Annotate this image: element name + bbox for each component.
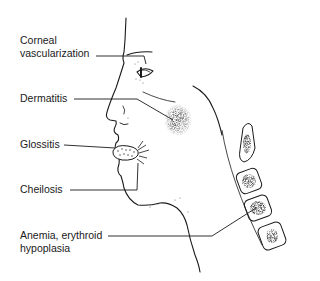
tongue bbox=[113, 141, 149, 164]
label-glossitis-text: Glossitis bbox=[20, 138, 60, 151]
label-dermatitis-text: Dermatitis bbox=[20, 92, 67, 105]
label-corneal-vascularization: Corneal vascularization bbox=[20, 34, 89, 60]
leader-glossitis bbox=[64, 145, 115, 148]
label-glossitis: Glossitis bbox=[20, 138, 60, 151]
label-cheilosis-text: Cheilosis bbox=[20, 183, 63, 196]
label-anemia-line1: Anemia, erythroid bbox=[20, 229, 102, 242]
label-corneal-line2: vascularization bbox=[20, 47, 89, 60]
leader-cheilosis bbox=[70, 163, 138, 190]
label-dermatitis: Dermatitis bbox=[20, 92, 67, 105]
leader-lines bbox=[64, 56, 256, 236]
cervical-vertebrae bbox=[222, 123, 287, 251]
label-anemia-erythroid-hypoplasia: Anemia, erythroid hypoplasia bbox=[20, 229, 102, 255]
leader-dermatitis bbox=[74, 99, 173, 120]
label-anemia-line2: hypoplasia bbox=[20, 242, 102, 255]
dermatitis-rash bbox=[164, 104, 192, 136]
leader-corneal bbox=[96, 56, 146, 64]
leader-anemia bbox=[108, 208, 256, 236]
label-corneal-line1: Corneal bbox=[20, 34, 89, 47]
label-cheilosis: Cheilosis bbox=[20, 183, 63, 196]
